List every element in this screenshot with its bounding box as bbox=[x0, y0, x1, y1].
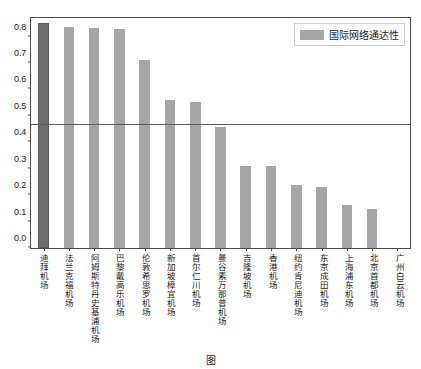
bar-slot bbox=[284, 18, 309, 248]
bar[interactable] bbox=[64, 27, 75, 248]
bar-slot bbox=[132, 18, 157, 248]
x-label-slot: 上海浦东机场 bbox=[335, 250, 360, 350]
bar-slot bbox=[82, 18, 107, 248]
bar-slot bbox=[208, 18, 233, 248]
x-label-slot: 迪拜机场 bbox=[30, 250, 55, 350]
legend-swatch-icon bbox=[300, 30, 324, 40]
bar-slot bbox=[107, 18, 132, 248]
x-axis-tick-label: 曼谷素万那普机场 bbox=[216, 254, 225, 326]
x-axis-tick-label: 迪拜机场 bbox=[38, 254, 47, 290]
plot-area: 0.00.10.20.30.40.50.60.70.8 国际网络通达性 bbox=[30, 17, 411, 249]
y-axis-tick-label: 0.4 bbox=[14, 127, 26, 137]
x-label-slot: 广州白云机场 bbox=[386, 250, 411, 350]
bar-slot bbox=[258, 18, 283, 248]
x-axis-tick-label: 巴黎戴高乐机场 bbox=[115, 254, 124, 317]
chart-legend: 国际网络通达性 bbox=[294, 23, 405, 46]
x-axis-labels: 迪拜机场法兰克福机场阿姆斯特丹史基浦机场巴黎戴高乐机场伦敦希思罗机场新加坡樟宜机… bbox=[30, 250, 411, 350]
x-axis-tick-label: 法兰克福机场 bbox=[64, 254, 73, 308]
bar[interactable] bbox=[240, 166, 251, 248]
x-axis-tick-label: 香港机场 bbox=[267, 254, 276, 290]
y-axis-tick-label: 0.7 bbox=[14, 48, 26, 58]
bar[interactable] bbox=[38, 23, 49, 248]
figure-caption: 图 bbox=[0, 352, 421, 367]
bar[interactable] bbox=[165, 100, 176, 248]
x-label-slot: 吉隆坡机场 bbox=[233, 250, 258, 350]
bar-slot bbox=[334, 18, 359, 248]
x-axis-tick-label: 新加坡樟宜机场 bbox=[165, 254, 174, 317]
x-label-slot: 阿姆斯特丹史基浦机场 bbox=[81, 250, 106, 350]
x-axis-tick-label: 广州白云机场 bbox=[394, 254, 403, 308]
x-axis-tick-label: 阿姆斯特丹史基浦机场 bbox=[89, 254, 98, 344]
x-label-slot: 巴黎戴高乐机场 bbox=[106, 250, 131, 350]
bar[interactable] bbox=[139, 60, 150, 248]
y-axis-tick-label: 0.3 bbox=[14, 154, 26, 164]
x-label-slot: 香港机场 bbox=[259, 250, 284, 350]
x-axis-tick-label: 北京首都机场 bbox=[369, 254, 378, 308]
x-axis-tick-label: 吉隆坡机场 bbox=[242, 254, 251, 299]
chart-figure: 0.00.10.20.30.40.50.60.70.8 国际网络通达性 迪拜机场… bbox=[0, 0, 421, 369]
bar[interactable] bbox=[367, 209, 378, 248]
bar[interactable] bbox=[89, 28, 100, 248]
y-axis-tick-label: 0.1 bbox=[14, 207, 26, 217]
x-label-slot: 北京首都机场 bbox=[360, 250, 385, 350]
bar[interactable] bbox=[316, 187, 327, 248]
bar[interactable] bbox=[215, 127, 226, 248]
x-label-slot: 法兰克福机场 bbox=[55, 250, 80, 350]
bar[interactable] bbox=[342, 205, 353, 248]
bar-slot bbox=[31, 18, 56, 248]
y-axis-tick-label: 0.2 bbox=[14, 180, 26, 190]
y-axis-tick-label: 0.6 bbox=[14, 74, 26, 84]
x-label-slot: 东京成田机场 bbox=[309, 250, 334, 350]
x-label-slot: 曼谷素万那普机场 bbox=[208, 250, 233, 350]
x-axis-tick-label: 东京成田机场 bbox=[318, 254, 327, 308]
x-axis-tick-label: 首尔仁川机场 bbox=[191, 254, 200, 308]
bar-slot bbox=[56, 18, 81, 248]
reference-line bbox=[31, 124, 410, 125]
x-label-slot: 首尔仁川机场 bbox=[182, 250, 207, 350]
x-axis-tick-label: 纽约肯尼迪机场 bbox=[292, 254, 301, 317]
bar-slot bbox=[157, 18, 182, 248]
bar[interactable] bbox=[291, 185, 302, 248]
bar-slot bbox=[359, 18, 384, 248]
x-label-slot: 伦敦希思罗机场 bbox=[132, 250, 157, 350]
bar-slot bbox=[183, 18, 208, 248]
x-label-slot: 纽约肯尼迪机场 bbox=[284, 250, 309, 350]
x-axis-tick-label: 上海浦东机场 bbox=[343, 254, 352, 308]
x-label-slot: 新加坡樟宜机场 bbox=[157, 250, 182, 350]
x-axis-tick-label: 伦敦希思罗机场 bbox=[140, 254, 149, 317]
bar[interactable] bbox=[114, 29, 125, 248]
bar-slot bbox=[309, 18, 334, 248]
y-axis-tick-label: 0.0 bbox=[14, 233, 26, 243]
y-axis-tick-label: 0.5 bbox=[14, 101, 26, 111]
bar-slot bbox=[233, 18, 258, 248]
bar[interactable] bbox=[266, 166, 277, 248]
legend-label: 国际网络通达性 bbox=[329, 27, 399, 42]
bar-slot bbox=[385, 18, 410, 248]
bar-series bbox=[31, 18, 410, 248]
y-axis-tick-label: 0.8 bbox=[14, 22, 26, 32]
